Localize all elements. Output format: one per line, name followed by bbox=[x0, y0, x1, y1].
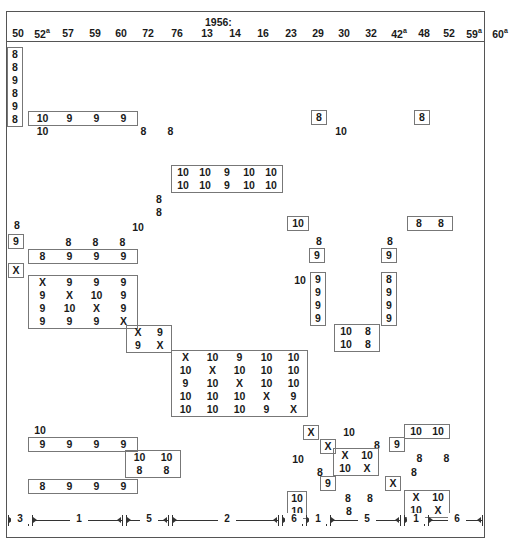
column-header-23[interactable]: 23 bbox=[280, 27, 302, 39]
column-header-superscript: a bbox=[504, 27, 508, 34]
column-header-14[interactable]: 14 bbox=[224, 27, 246, 39]
matrix-cell: 9 bbox=[310, 249, 324, 262]
column-header-32[interactable]: 32 bbox=[360, 27, 382, 39]
lbl-10-mr2[interactable]: 10 bbox=[289, 274, 311, 287]
matrix-cell: 10 bbox=[288, 217, 308, 230]
matrix-10-10-8-8[interactable]: 101088 bbox=[125, 450, 181, 478]
matrix-cell: 8 bbox=[430, 217, 452, 230]
row-10-10-br[interactable]: 1010 bbox=[404, 424, 450, 439]
lbl-10-mid1[interactable]: 10 bbox=[127, 221, 149, 234]
lbl-10-bl[interactable]: 10 bbox=[29, 424, 51, 437]
col-50-stack[interactable]: 889898 bbox=[7, 47, 23, 127]
matrix-row: 9X109 bbox=[29, 289, 137, 302]
column-header-60a[interactable]: 60a bbox=[487, 27, 513, 40]
box-8-r2[interactable]: 8 bbox=[414, 110, 430, 125]
box-9-rr[interactable]: 9 bbox=[381, 248, 397, 263]
column-header-42a[interactable]: 42a bbox=[386, 27, 412, 40]
matrix-row: 1010109X bbox=[172, 403, 307, 416]
ruler-arrow bbox=[163, 517, 167, 523]
matrix-row: 9 bbox=[382, 249, 396, 262]
matrix-cell: 10 bbox=[405, 425, 427, 438]
matrix-row: 8999 bbox=[29, 480, 137, 493]
box-8-r1[interactable]: 8 bbox=[311, 110, 327, 125]
matrix-2x2-br[interactable]: X1010X bbox=[333, 448, 379, 476]
column-header-29[interactable]: 29 bbox=[307, 27, 329, 39]
matrix-cell: X bbox=[356, 462, 378, 475]
matrix-cell: X bbox=[226, 377, 253, 390]
matrix-10-8-mr[interactable]: 108108 bbox=[334, 324, 380, 352]
row-8-8-rr[interactable]: 88 bbox=[407, 216, 453, 231]
matrix-cell: 9 bbox=[110, 302, 137, 315]
matrix-row: 10 bbox=[288, 217, 308, 230]
column-header-72[interactable]: 72 bbox=[137, 27, 159, 39]
box-9-br2[interactable]: 9 bbox=[320, 476, 336, 491]
column-header-52a[interactable]: 52a bbox=[29, 27, 55, 40]
matrix-5x5-center[interactable]: X109101010X101010910X1010101010X91010109… bbox=[171, 350, 308, 417]
column-header-52[interactable]: 52 bbox=[438, 27, 460, 39]
lbl-10-r1[interactable]: 10 bbox=[330, 125, 352, 138]
column-header-59[interactable]: 59 bbox=[84, 27, 106, 39]
column-header-59a[interactable]: 59a bbox=[461, 27, 487, 40]
box-X-br3[interactable]: X bbox=[385, 476, 401, 491]
row-8-9-9-9-bl[interactable]: 8999 bbox=[28, 479, 138, 494]
column-header-16[interactable]: 16 bbox=[252, 27, 274, 39]
lbl-8-8-a[interactable]: 88 bbox=[130, 125, 184, 138]
ruler-tick bbox=[122, 515, 123, 526]
column-header-30[interactable]: 30 bbox=[333, 27, 355, 39]
box-9-mr[interactable]: 9 bbox=[309, 248, 325, 263]
matrix-cell: 8 bbox=[8, 87, 22, 100]
matrix-row: 10X bbox=[334, 462, 378, 475]
col-8999-rr[interactable]: 8999 bbox=[381, 272, 397, 326]
matrix-cell: X bbox=[29, 276, 56, 289]
matrix-cell: 9 bbox=[29, 289, 56, 302]
row-b1[interactable]: 10999 bbox=[28, 111, 138, 126]
matrix-2x2-mid[interactable]: X99X bbox=[126, 325, 172, 353]
matrix-cell: 8 bbox=[10, 219, 24, 232]
col-9999-mr[interactable]: 9999 bbox=[310, 272, 326, 326]
row-8-8-8-top[interactable]: 888 bbox=[55, 236, 136, 249]
matrix-cell: 10 bbox=[199, 377, 226, 390]
row-9-9-9-9-bl[interactable]: 9999 bbox=[28, 437, 138, 452]
matrix-row: 910X1010 bbox=[172, 377, 307, 390]
box-10-mr[interactable]: 10 bbox=[287, 216, 309, 231]
matrix-row: X bbox=[386, 477, 400, 490]
box-9-left[interactable]: 9 bbox=[8, 234, 24, 249]
matrix-row: 10 bbox=[289, 274, 311, 287]
matrix-cell: 10 bbox=[260, 179, 282, 192]
lbl-10-br1[interactable]: 10 bbox=[338, 426, 360, 439]
lbl-8-8-br[interactable]: 88 bbox=[406, 452, 460, 465]
matrix-cell: 9 bbox=[83, 250, 110, 263]
column-header-57[interactable]: 57 bbox=[57, 27, 79, 39]
matrix-cell: 9 bbox=[83, 480, 110, 493]
matrix-cell: 9 bbox=[172, 377, 199, 390]
column-header-50[interactable]: 50 bbox=[7, 27, 29, 39]
matrix-cell: 10 bbox=[334, 462, 356, 475]
matrix-cell: 9 bbox=[83, 112, 110, 125]
box-X-left[interactable]: X bbox=[8, 263, 24, 278]
box-9-br1[interactable]: 9 bbox=[389, 437, 405, 452]
lbl-10-br2[interactable]: 10 bbox=[287, 453, 309, 466]
lbl-10-a[interactable]: 10 bbox=[29, 125, 56, 138]
column-header-48[interactable]: 48 bbox=[413, 27, 435, 39]
column-header-13[interactable]: 13 bbox=[196, 27, 218, 39]
lbl-8-rr1[interactable]: 8 bbox=[383, 235, 397, 248]
lbl-8-br3[interactable]: 8 bbox=[407, 466, 421, 479]
matrix-5x2-mid[interactable]: 101091010101091010 bbox=[171, 165, 283, 193]
column-header-60[interactable]: 60 bbox=[110, 27, 132, 39]
matrix-4x4-left[interactable]: X9999X109910X9999X bbox=[28, 275, 138, 329]
lbl-8-8-stack[interactable]: 88 bbox=[152, 193, 166, 219]
matrix-cell: X bbox=[83, 302, 110, 315]
ruler-segment-label: 6 bbox=[285, 513, 303, 524]
column-header-76[interactable]: 76 bbox=[166, 27, 188, 39]
box-X-br1[interactable]: X bbox=[303, 425, 319, 440]
matrix-cell: 8 bbox=[157, 125, 184, 138]
row-8-9-9-9[interactable]: 8999 bbox=[28, 249, 138, 264]
matrix-cell: 9 bbox=[226, 351, 253, 364]
lbl-8-mr1[interactable]: 8 bbox=[312, 235, 326, 248]
matrix-cell: 10 bbox=[253, 377, 280, 390]
lbl-8-8-br2[interactable]: 88 bbox=[337, 492, 381, 505]
header-rule bbox=[6, 41, 485, 42]
matrix-row: 1010 bbox=[126, 451, 180, 464]
lbl-8-left[interactable]: 8 bbox=[10, 219, 24, 232]
matrix-cell: 8 bbox=[152, 206, 166, 219]
